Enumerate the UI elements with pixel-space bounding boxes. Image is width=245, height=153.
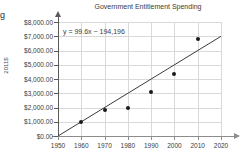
y-axis-tick [54, 22, 58, 23]
data-point [103, 108, 107, 112]
y-axis-tick [54, 79, 58, 80]
y-axis-tick-label: $4,000.00 [1, 76, 53, 83]
y-axis-tick-label: $8,000.00 [1, 19, 53, 26]
y-axis-tick-label: $6,000.00 [1, 47, 53, 54]
x-axis-tick [81, 136, 82, 140]
x-axis-tick-label: 2020 [206, 142, 236, 150]
gridline-vertical [81, 22, 82, 136]
x-axis-tick [128, 136, 129, 140]
x-axis-tick [151, 136, 152, 140]
y-axis-tick [54, 36, 58, 37]
y-axis-tick [54, 108, 58, 109]
y-axis-line [58, 16, 59, 136]
y-axis-tick [54, 122, 58, 123]
data-point [196, 37, 200, 41]
y-axis-tick-label: $3,000.00 [1, 90, 53, 97]
y-axis-arrow-icon [55, 11, 61, 17]
data-point [126, 106, 130, 110]
gridline-horizontal [58, 22, 221, 23]
gridline-horizontal [58, 108, 221, 109]
y-axis-tick-label: $0.00 [1, 133, 53, 140]
gridline-vertical [105, 22, 106, 136]
gridline-horizontal [58, 79, 221, 80]
y-axis-tick-label: $7,000.00 [1, 33, 53, 40]
y-axis-tick-label: $1,000.00 [1, 118, 53, 125]
gridline-vertical [128, 22, 129, 136]
x-axis-line [52, 136, 234, 137]
gridline-horizontal [58, 51, 221, 52]
x-axis-tick [58, 136, 59, 140]
chart-figure: g Government Entitlement Spending 2011$ … [0, 0, 245, 153]
x-axis-tick [105, 136, 106, 140]
x-axis-tick [221, 136, 222, 140]
x-axis-arrow-icon [234, 133, 240, 139]
y-axis-tick-label: $2,000.00 [1, 104, 53, 111]
gridline-vertical [221, 22, 222, 136]
trendline-equation-label: y = 99.6x − 194,196 [63, 27, 125, 36]
gridline-vertical [151, 22, 152, 136]
y-axis-tick [54, 65, 58, 66]
x-axis-tick [198, 136, 199, 140]
x-axis-tick [174, 136, 175, 140]
y-axis-tick [54, 93, 58, 94]
chart-title: Government Entitlement Spending [58, 2, 238, 11]
y-axis-tick [54, 51, 58, 52]
y-axis-tick-label: $5,000.00 [1, 61, 53, 68]
gridline-vertical [174, 22, 175, 136]
gridline-horizontal [58, 93, 221, 94]
gridline-horizontal [58, 65, 221, 66]
